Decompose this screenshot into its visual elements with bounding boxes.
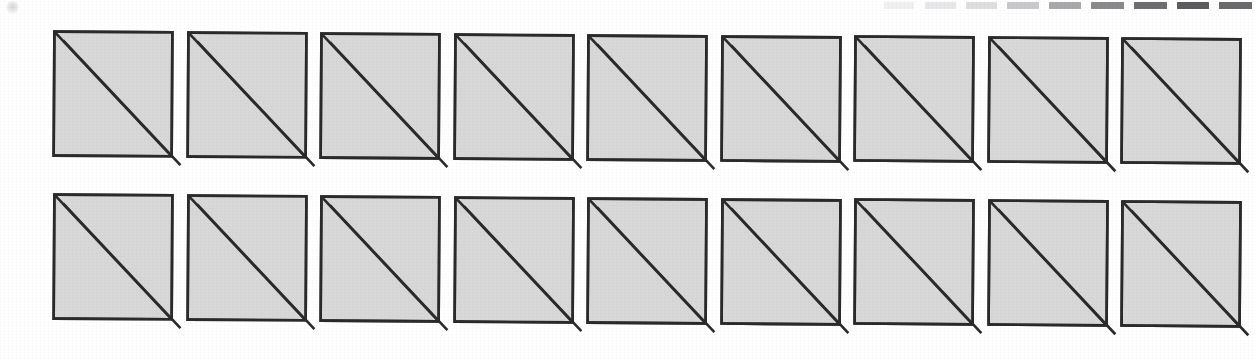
tile-r1-c3-glyph — [319, 31, 452, 170]
figure-page — [0, 0, 1255, 359]
tile-r2-c6-glyph — [719, 197, 852, 336]
tile-r1-c3 — [319, 31, 452, 170]
tile-r1-c5-glyph — [586, 33, 719, 172]
tile-r1-c2-glyph — [185, 31, 318, 170]
tick-strip — [884, 0, 1252, 16]
tile-r1-c4 — [452, 32, 585, 171]
tile-r1-c2 — [185, 31, 318, 170]
tile-r1-c4-glyph — [452, 32, 585, 171]
tick-dash — [925, 2, 956, 9]
tick-dash — [1007, 2, 1039, 9]
tile-r2-c9-glyph — [1120, 200, 1253, 339]
tick-dash — [1219, 2, 1252, 9]
tile-r2-c7 — [853, 198, 986, 337]
tick-dash — [884, 2, 914, 9]
tick-dash — [1134, 2, 1167, 9]
tile-r1-c9 — [1120, 37, 1253, 176]
tile-r2-c1 — [52, 193, 185, 332]
registration-dot-icon — [6, 1, 19, 14]
tile-r2-c4-glyph — [452, 195, 585, 334]
tile-r2-c5-glyph — [586, 196, 719, 335]
tile-r1-c6-glyph — [719, 34, 852, 173]
tile-r2-c6 — [719, 197, 852, 336]
tile-r2-c3-glyph — [319, 194, 452, 333]
tick-dash — [966, 2, 997, 9]
tile-r2-c7-glyph — [853, 198, 986, 337]
tile-r2-c9 — [1120, 200, 1253, 339]
tick-dash — [1177, 2, 1209, 9]
tile-row-1 — [0, 30, 1255, 190]
tile-r2-c4 — [452, 195, 585, 334]
tile-r1-c8 — [986, 36, 1119, 175]
tick-dash — [1049, 2, 1081, 9]
tile-r2-c8 — [986, 199, 1119, 338]
tile-r1-c9-glyph — [1120, 37, 1253, 176]
tile-r2-c3 — [319, 194, 452, 333]
tile-r2-c2 — [185, 194, 318, 333]
tile-r2-c2-glyph — [185, 194, 318, 333]
tile-r1-c6 — [719, 34, 852, 173]
tile-r2-c1-glyph — [52, 193, 185, 332]
tick-dash — [1091, 2, 1124, 9]
tile-r2-c5 — [586, 196, 719, 335]
tile-r1-c1 — [52, 30, 185, 169]
tile-r1-c8-glyph — [986, 36, 1119, 175]
tile-r1-c7-glyph — [853, 35, 986, 174]
tile-r1-c5 — [586, 33, 719, 172]
tile-r1-c1-glyph — [52, 30, 185, 169]
tile-row-2 — [0, 193, 1255, 353]
tile-r2-c8-glyph — [986, 199, 1119, 338]
tile-r1-c7 — [853, 35, 986, 174]
